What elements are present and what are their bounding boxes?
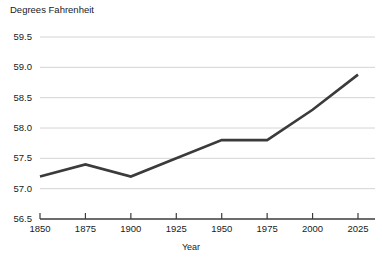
x-tick-label: 1925 <box>154 224 198 234</box>
y-tick-label: 56.5 <box>2 214 32 224</box>
x-tick-label: 1875 <box>63 224 107 234</box>
x-tick-label: 1975 <box>245 224 289 234</box>
x-tick-label: 2025 <box>336 224 380 234</box>
data-series-line <box>40 75 358 177</box>
x-tick-label: 1850 <box>18 224 62 234</box>
y-tick-label: 57.5 <box>2 153 32 163</box>
plot-area <box>0 0 382 259</box>
y-tick-label: 58.0 <box>2 123 32 133</box>
y-tick-label: 59.5 <box>2 32 32 42</box>
y-tick-label: 58.5 <box>2 93 32 103</box>
y-tick-label: 59.0 <box>2 62 32 72</box>
x-axis-title: Year <box>0 242 382 252</box>
x-tick-label: 1950 <box>200 224 244 234</box>
x-tick-label: 2000 <box>291 224 335 234</box>
temperature-line-chart: Degrees Fahrenheit 56.557.057.558.058.55… <box>0 0 382 259</box>
x-tick-label: 1900 <box>109 224 153 234</box>
y-tick-label: 57.0 <box>2 184 32 194</box>
x-tick-marks-group <box>40 213 358 219</box>
